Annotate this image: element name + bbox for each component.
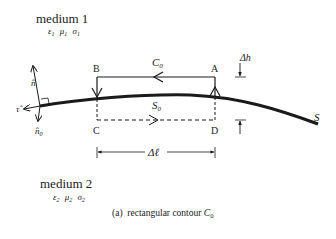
medium-2-label: medium 2: [40, 176, 92, 191]
surface-segment-label: S0: [152, 99, 162, 113]
n0-hat-label: n̂0: [35, 126, 43, 137]
svg-text:ε2 μ2 σ2: ε2 μ2 σ2: [53, 192, 85, 204]
corner-d-label: D: [211, 125, 218, 136]
interface-surface-curve: [40, 95, 318, 124]
surface-label: S: [314, 111, 320, 123]
contour-name-label: C0: [152, 56, 163, 70]
corner-c-label: C: [93, 125, 100, 136]
delta-h-label: Δh: [239, 52, 251, 63]
tau-hat-label: τ̂: [16, 104, 23, 114]
right-angle-marker: [41, 98, 49, 104]
n-hat-label: n̂: [31, 78, 36, 88]
delta-l-label: Δℓ: [147, 146, 159, 158]
svg-text:ε1 μ1 σ1: ε1 μ1 σ1: [48, 26, 80, 38]
delta-h-dimension: [235, 63, 246, 134]
medium-1-label: medium 1: [36, 11, 88, 26]
corner-a-label: A: [211, 63, 219, 74]
contour-diagram: medium 1 ε1 μ1 σ1 S n̂ τ̂ n̂0 B A C D C: [0, 0, 336, 239]
tau-hat-vector: [24, 106, 40, 109]
figure-caption: (a) rectangular contour C0: [112, 208, 213, 219]
medium-2-params: ε2 μ2 σ2: [53, 192, 85, 204]
corner-b-label: B: [93, 63, 100, 74]
medium-1-params: ε1 μ1 σ1: [48, 26, 80, 38]
n0-hat-vector: [38, 106, 40, 121]
